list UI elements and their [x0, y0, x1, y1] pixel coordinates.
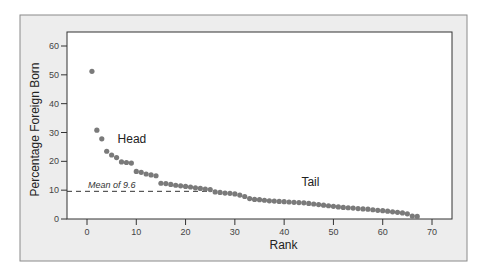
- data-point: [89, 69, 94, 74]
- data-point: [232, 191, 237, 196]
- data-point: [390, 209, 395, 214]
- data-point: [405, 211, 410, 216]
- data-point: [277, 199, 282, 204]
- data-point: [124, 160, 129, 165]
- x-tick-label: 20: [181, 227, 191, 237]
- data-point: [188, 184, 193, 189]
- data-point: [351, 205, 356, 210]
- data-point: [129, 160, 134, 165]
- annotation-tail: Tail: [301, 175, 319, 189]
- y-tick-label: 0: [54, 214, 59, 224]
- data-point: [114, 155, 119, 160]
- x-axis-title: Rank: [269, 238, 298, 252]
- data-point: [213, 189, 218, 194]
- data-point: [360, 206, 365, 211]
- data-point: [380, 208, 385, 213]
- data-point: [355, 206, 360, 211]
- data-point: [144, 171, 149, 176]
- data-point: [262, 198, 267, 203]
- data-point: [385, 209, 390, 214]
- data-point: [326, 203, 331, 208]
- data-point: [183, 184, 188, 189]
- data-point: [208, 187, 213, 192]
- data-point: [296, 200, 301, 205]
- x-tick-label: 70: [427, 227, 437, 237]
- data-point: [336, 204, 341, 209]
- data-point: [227, 191, 232, 196]
- data-point: [331, 204, 336, 209]
- data-point: [158, 181, 163, 186]
- data-point: [395, 210, 400, 215]
- x-tick-label: 0: [84, 227, 89, 237]
- x-tick-label: 30: [230, 227, 240, 237]
- data-point: [282, 199, 287, 204]
- y-tick-label: 40: [49, 99, 59, 109]
- data-point: [257, 197, 262, 202]
- x-tick-label: 50: [328, 227, 338, 237]
- data-point: [203, 186, 208, 191]
- data-point: [410, 214, 415, 219]
- data-point: [286, 199, 291, 204]
- data-point: [321, 203, 326, 208]
- data-point: [247, 196, 252, 201]
- data-point: [198, 186, 203, 191]
- data-point: [400, 210, 405, 215]
- data-point: [217, 190, 222, 195]
- data-point: [178, 183, 183, 188]
- data-point: [119, 159, 124, 164]
- y-tick-label: 30: [49, 128, 59, 138]
- data-point: [415, 214, 420, 219]
- y-tick-label: 10: [49, 185, 59, 195]
- data-point: [109, 152, 114, 157]
- data-point: [173, 183, 178, 188]
- data-point: [375, 208, 380, 213]
- y-tick-label: 60: [49, 41, 59, 51]
- data-point: [267, 198, 272, 203]
- y-axis-title: Percentage Foreign Born: [28, 62, 42, 196]
- data-point: [365, 207, 370, 212]
- data-point: [222, 190, 227, 195]
- data-point: [252, 197, 257, 202]
- data-point: [148, 172, 153, 177]
- data-point: [341, 205, 346, 210]
- data-point: [139, 170, 144, 175]
- data-point: [193, 185, 198, 190]
- data-point: [316, 202, 321, 207]
- data-point: [99, 136, 104, 141]
- mean-label: Mean of 9.6: [88, 180, 136, 190]
- data-point: [94, 128, 99, 133]
- data-point: [346, 205, 351, 210]
- data-point: [311, 201, 316, 206]
- data-point: [134, 169, 139, 174]
- data-point: [163, 181, 168, 186]
- x-tick-label: 40: [279, 227, 289, 237]
- data-point: [242, 194, 247, 199]
- annotation-head: Head: [118, 132, 147, 146]
- y-tick-label: 20: [49, 156, 59, 166]
- data-point: [301, 200, 306, 205]
- data-point: [370, 207, 375, 212]
- data-point: [306, 201, 311, 206]
- data-point: [168, 182, 173, 187]
- chart: 0102030405060 010203040506070 Mean of 9.…: [0, 0, 488, 276]
- data-point: [104, 149, 109, 154]
- x-tick-label: 10: [131, 227, 141, 237]
- data-point: [237, 192, 242, 197]
- data-point: [291, 200, 296, 205]
- y-tick-label: 50: [49, 70, 59, 80]
- data-point: [272, 199, 277, 204]
- data-point: [153, 173, 158, 178]
- x-tick-label: 60: [378, 227, 388, 237]
